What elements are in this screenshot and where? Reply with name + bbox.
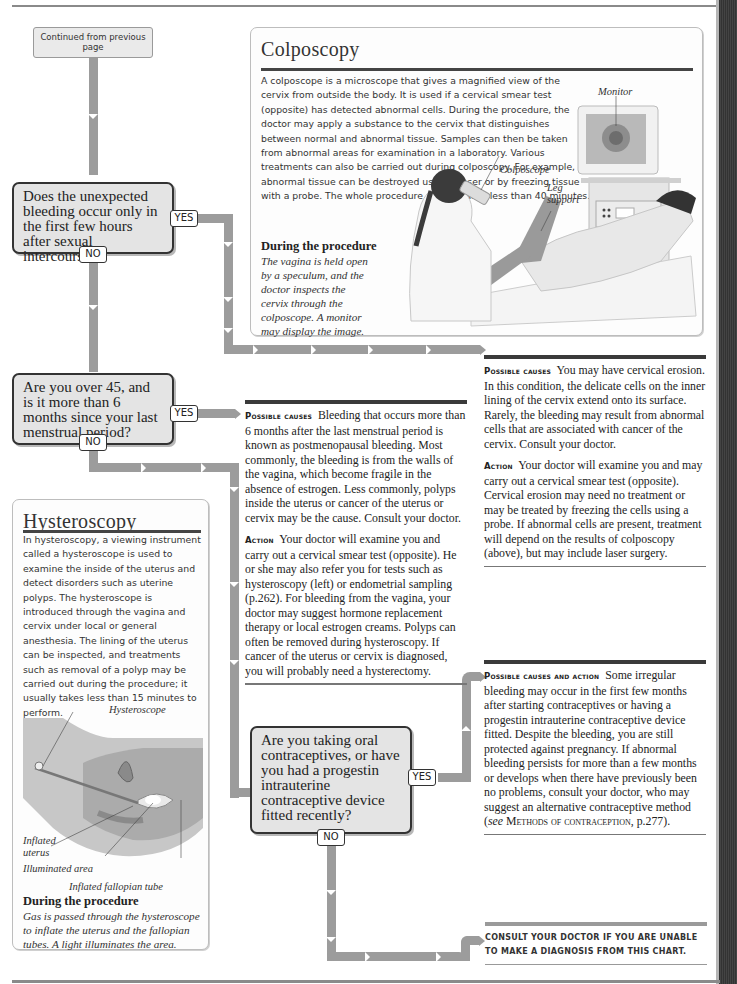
outcome-rule-top xyxy=(245,400,467,404)
outcome-cervical-erosion: Possible causes You may have cervical er… xyxy=(484,355,706,567)
yes-label: YES xyxy=(175,212,194,223)
continued-label: Continued from previous page xyxy=(40,32,145,52)
question-box-1[interactable]: Does the unexpected bleeding occur only … xyxy=(12,182,174,254)
flow-line xyxy=(230,788,250,797)
flow-chevron xyxy=(368,345,373,355)
flow-chevron xyxy=(229,487,239,492)
flow-line xyxy=(224,345,480,354)
flow-line xyxy=(327,843,336,961)
leg-support-label: Leg support xyxy=(547,182,579,206)
no-button-q2[interactable]: NO xyxy=(79,434,107,451)
action-paragraph: Action Your doctor will examine you and … xyxy=(484,458,706,561)
yes-button-q3[interactable]: YES xyxy=(408,769,436,786)
flow-chevron xyxy=(253,345,258,355)
action-label: Action xyxy=(245,535,274,545)
causes-and-action-paragraph: Possible causes and action Some irregula… xyxy=(484,668,706,829)
possible-causes-paragraph: Possible causes Bleeding that occurs mor… xyxy=(245,408,467,525)
action-text: Your doctor will examine you and carry o… xyxy=(245,532,457,678)
flow-chevron xyxy=(426,345,431,355)
possible-causes-paragraph: Possible causes You may have cervical er… xyxy=(484,363,706,451)
hysteroscopy-panel: Hysteroscopy In hysteroscopy, a viewing … xyxy=(12,499,209,950)
flow-line xyxy=(230,463,239,798)
bottom-rule xyxy=(12,980,720,983)
flow-chevron xyxy=(88,114,98,119)
flow-line xyxy=(461,936,479,945)
outcome-rule-bottom xyxy=(485,964,707,965)
outcome-rule-top xyxy=(484,660,706,664)
procedure-heading: During the procedure xyxy=(23,894,139,909)
leg-label: Leg xyxy=(547,182,563,193)
yes-button-q1[interactable]: YES xyxy=(170,210,198,227)
no-label: NO xyxy=(85,436,100,447)
question-box-3[interactable]: Are you taking oral contraceptives, or h… xyxy=(250,726,412,834)
possible-causes-label: Possible causes xyxy=(245,411,312,421)
flow-chevron xyxy=(436,952,441,962)
flow-line xyxy=(224,214,233,354)
inflated-fallopian-tube-label: Inflated fallopian tube xyxy=(69,881,163,892)
inflated-label: Inflated xyxy=(23,835,56,846)
flow-chevron xyxy=(311,345,316,355)
flow-chevron xyxy=(326,937,336,942)
action-text: Your doctor will examine you and may car… xyxy=(484,458,702,560)
flow-chevron xyxy=(223,328,233,333)
top-rule xyxy=(12,5,720,7)
hysteroscope-label: Hysteroscope xyxy=(109,704,166,715)
flow-line xyxy=(462,680,471,782)
procedure-text: Gas is passed through the hysteroscope t… xyxy=(23,909,203,951)
colposcope-label: Colposcope xyxy=(500,164,550,175)
monitor-label: Monitor xyxy=(598,86,632,97)
see-text: see xyxy=(488,814,503,828)
flow-chevron xyxy=(229,660,239,665)
possible-causes-text: You may have cervical erosion. In this c… xyxy=(484,363,705,451)
yes-label: YES xyxy=(413,771,432,782)
flow-chevron xyxy=(223,297,233,302)
flow-chevron xyxy=(141,463,146,473)
question-text: Are you over 45, and is it more than 6 m… xyxy=(23,379,158,440)
causes-and-action-text: Some irregular bleeding may occur in the… xyxy=(484,668,697,828)
flow-line xyxy=(89,463,239,472)
flow-chevron xyxy=(223,242,233,247)
consult-text: Consult your doctor if you are unable to… xyxy=(485,931,707,959)
no-button-q1[interactable]: NO xyxy=(79,246,107,263)
flow-chevron xyxy=(229,582,239,587)
uterus-label: uterus xyxy=(23,847,49,858)
flow-line xyxy=(198,409,235,418)
no-button-q3[interactable]: NO xyxy=(317,829,345,846)
page-reference: , p.277). xyxy=(631,814,670,828)
colposcopy-panel: Colposcopy A colposcope is a microscope … xyxy=(250,27,703,336)
causes-and-action-label: Possible causes and action xyxy=(484,671,599,681)
no-label: NO xyxy=(323,831,338,842)
action-label: Action xyxy=(484,461,513,471)
methods-of-contraception-link[interactable]: Methods of contraception xyxy=(506,814,631,828)
yes-label: YES xyxy=(175,407,194,418)
hysteroscopy-body: In hysteroscopy, a viewing instrument ca… xyxy=(23,533,203,720)
colposcopy-illustration xyxy=(401,86,701,331)
possible-causes-label: Possible causes xyxy=(484,366,551,376)
support-label: support xyxy=(547,194,579,205)
outcome-rule-top xyxy=(484,355,706,359)
no-label: NO xyxy=(85,248,100,259)
outcome-rule-bottom xyxy=(484,566,706,568)
flow-line xyxy=(327,952,467,961)
yes-button-q2[interactable]: YES xyxy=(170,405,198,422)
flow-chevron xyxy=(365,952,370,962)
outcome-postmenopausal: Possible causes Bleeding that occurs mor… xyxy=(245,400,467,685)
outcome-rule-bottom xyxy=(245,683,467,685)
flow-line xyxy=(89,262,98,372)
inflated-uterus-label: Inflated uterus xyxy=(23,835,56,859)
flow-chevron xyxy=(201,463,206,473)
outcome-contraceptives: Possible causes and action Some irregula… xyxy=(484,660,706,835)
flow-chevron xyxy=(461,726,471,731)
flow-chevron xyxy=(326,890,336,895)
outcome-rule-top xyxy=(485,922,707,926)
colposcopy-title: Colposcopy xyxy=(261,38,360,61)
flow-chevron xyxy=(88,305,98,310)
continued-from-previous-page[interactable]: Continued from previous page xyxy=(33,27,153,58)
possible-causes-text: Bleeding that occurs more than 6 months … xyxy=(245,408,465,525)
flow-arrowhead xyxy=(480,345,486,355)
outcome-consult: Consult your doctor if you are unable to… xyxy=(485,922,707,965)
chapter-side-strip xyxy=(719,0,737,984)
outcome-rule-bottom xyxy=(484,834,706,836)
action-paragraph: Action Your doctor will examine you and … xyxy=(245,532,467,678)
procedure-heading: During the procedure xyxy=(261,239,377,254)
